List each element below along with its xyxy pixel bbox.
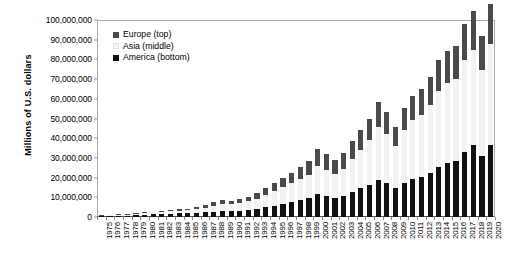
bar-slot: [209, 20, 218, 217]
bar-segment-asia: [229, 204, 234, 211]
stacked-bar[interactable]: [350, 141, 355, 217]
stacked-bar[interactable]: [168, 210, 173, 217]
y-axis-tick-label: 90,000,000: [50, 35, 92, 45]
x-axis-tick-mark: [184, 217, 185, 220]
stacked-bar[interactable]: [453, 46, 458, 217]
bar-slot: [279, 20, 288, 217]
bar-slot: [443, 20, 452, 217]
bar-slot: [244, 20, 253, 217]
bar-slot: [305, 20, 314, 217]
stacked-bar[interactable]: [384, 112, 389, 217]
bar-segment-asia: [289, 183, 294, 202]
stacked-bar[interactable]: [324, 154, 329, 217]
x-axis-tick-label: 1989: [226, 222, 235, 239]
stacked-bar[interactable]: [341, 153, 346, 217]
stacked-bar[interactable]: [471, 11, 476, 217]
stacked-bar[interactable]: [254, 193, 259, 217]
stacked-bar[interactable]: [203, 205, 208, 217]
stacked-bar[interactable]: [211, 202, 216, 217]
x-axis-tick-mark: [339, 217, 340, 220]
bar-slot: [374, 20, 383, 217]
legend-item-label: Europe (top): [123, 29, 171, 41]
bar-segment-asia: [393, 146, 398, 188]
bar-segment-america: [436, 167, 441, 217]
stacked-bar[interactable]: [419, 89, 424, 217]
y-axis-tick-label: 70,000,000: [50, 74, 92, 84]
bar-segment-america: [315, 194, 320, 217]
x-axis-tick-mark: [140, 217, 141, 220]
bar-segment-america: [254, 209, 259, 217]
bar-segment-america: [410, 179, 415, 217]
stacked-bar[interactable]: [220, 200, 225, 217]
bar-segment-asia: [462, 60, 467, 152]
stacked-bar[interactable]: [367, 119, 372, 217]
y-axis-tick-label: 60,000,000: [50, 94, 92, 104]
bar-segment-america: [488, 145, 493, 217]
bar-segment-europe: [332, 160, 337, 174]
bar-segment-asia: [332, 174, 337, 199]
stacked-bar[interactable]: [237, 199, 242, 217]
x-axis-tick-mark: [348, 217, 349, 220]
stacked-bar[interactable]: [298, 167, 303, 217]
stacked-bar[interactable]: [358, 130, 363, 217]
stacked-bar[interactable]: [376, 102, 381, 217]
x-axis-tick-label: 1986: [200, 222, 209, 239]
x-axis-tick-mark: [279, 217, 280, 220]
bar-segment-asia: [341, 169, 346, 197]
bar-segment-asia: [402, 130, 407, 182]
y-axis-tick-label: 100,000,000: [46, 15, 92, 25]
chart-legend: Europe (top)Asia (middle)America (bottom…: [113, 29, 190, 64]
stacked-bar[interactable]: [263, 188, 268, 217]
stacked-bar[interactable]: [402, 108, 407, 217]
x-axis-tick-mark: [270, 217, 271, 220]
bar-segment-america: [428, 173, 433, 217]
bar-slot: [383, 20, 392, 217]
x-axis-tick-mark: [235, 217, 236, 220]
bar-segment-asia: [350, 159, 355, 192]
stacked-bar[interactable]: [280, 178, 285, 217]
x-axis-tick-mark: [132, 217, 133, 220]
x-axis-tick-mark: [97, 217, 98, 220]
stacked-bar[interactable]: [445, 51, 450, 217]
bar-segment-america: [445, 163, 450, 217]
bar-segment-america: [289, 202, 294, 217]
bar-segment-asia: [428, 105, 433, 173]
stacked-bar[interactable]: [306, 161, 311, 217]
stacked-bar[interactable]: [289, 173, 294, 218]
legend-swatch-icon: [113, 43, 119, 49]
stacked-bar[interactable]: [185, 209, 190, 217]
stacked-bar[interactable]: [428, 77, 433, 217]
bar-segment-asia: [306, 175, 311, 199]
bar-segment-asia: [237, 203, 242, 210]
stacked-bar[interactable]: [177, 209, 182, 217]
x-axis-tick-mark: [244, 217, 245, 220]
stacked-bar[interactable]: [479, 36, 484, 217]
legend-item[interactable]: Asia (middle): [113, 41, 190, 53]
bar-segment-asia: [471, 50, 476, 146]
x-axis-tick-label: 1994: [269, 222, 278, 239]
legend-item[interactable]: America (bottom): [113, 52, 190, 64]
bar-segment-america: [358, 188, 363, 217]
bar-slot: [452, 20, 461, 217]
x-axis-tick-label: 2011: [416, 222, 425, 238]
stacked-bar-chart: Millions of U.S. dollars 010,000,00020,0…: [0, 0, 517, 268]
stacked-bar[interactable]: [488, 4, 493, 217]
stacked-bar[interactable]: [246, 197, 251, 217]
stacked-bar[interactable]: [229, 201, 234, 217]
bar-segment-asia: [324, 170, 329, 197]
stacked-bar[interactable]: [393, 127, 398, 217]
x-axis-tick-label: 1988: [217, 222, 226, 239]
bar-segment-europe: [272, 183, 277, 191]
bar-slot: [365, 20, 374, 217]
stacked-bar[interactable]: [332, 160, 337, 217]
bar-segment-america: [272, 206, 277, 217]
bar-slot: [478, 20, 487, 217]
stacked-bar[interactable]: [194, 207, 199, 217]
stacked-bar[interactable]: [315, 149, 320, 217]
stacked-bar[interactable]: [272, 183, 277, 217]
stacked-bar[interactable]: [436, 60, 441, 217]
stacked-bar[interactable]: [410, 96, 415, 217]
legend-item[interactable]: Europe (top): [113, 29, 190, 41]
x-axis-tick-label: 2005: [364, 222, 373, 239]
stacked-bar[interactable]: [462, 24, 467, 217]
